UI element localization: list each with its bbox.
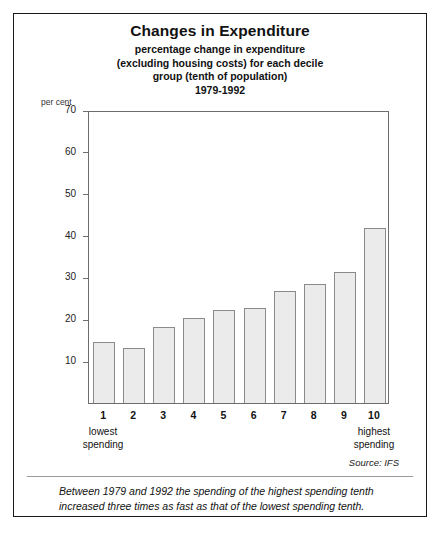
x-axis-note-lowest: lowest spending xyxy=(68,425,138,451)
bar xyxy=(304,284,326,403)
y-axis-tick-label: 10 xyxy=(65,355,76,366)
figure-subtitle: percentage change in expenditure (exclud… xyxy=(14,43,426,97)
bar xyxy=(93,342,115,403)
y-axis-tick-label: 70 xyxy=(65,104,76,115)
subtitle-line-4: 1979-1992 xyxy=(14,84,426,98)
bar-slot xyxy=(213,112,235,403)
bar-slot xyxy=(364,112,386,403)
bar-slot xyxy=(334,112,356,403)
y-axis-tick-label: 60 xyxy=(65,146,76,157)
title-block: Changes in Expenditure percentage change… xyxy=(14,21,426,97)
bar xyxy=(244,308,266,403)
figure-frame: Changes in Expenditure percentage change… xyxy=(13,13,427,517)
bar xyxy=(334,272,356,403)
bar-slot xyxy=(183,112,205,403)
bar-slot xyxy=(274,112,296,403)
y-axis-tick-label: 50 xyxy=(65,188,76,199)
bars-layer xyxy=(89,112,388,403)
page-title: Changes in Expenditure xyxy=(14,21,426,40)
subtitle-line-2: (excluding housing costs) for each decil… xyxy=(14,57,426,71)
bar-slot xyxy=(123,112,145,403)
bar xyxy=(183,318,205,403)
bar xyxy=(364,228,386,403)
footnote-divider xyxy=(27,476,413,477)
source-note: Source: IFS xyxy=(349,457,399,468)
bar-slot xyxy=(304,112,326,403)
bar-slot xyxy=(93,112,115,403)
subtitle-line-1: percentage change in expenditure xyxy=(14,43,426,57)
footnote-text: Between 1979 and 1992 the spending of th… xyxy=(59,484,396,514)
y-axis-tick-label: 40 xyxy=(65,230,76,241)
bar-slot xyxy=(244,112,266,403)
bar xyxy=(123,348,145,403)
y-axis-tick-label: 20 xyxy=(65,313,76,324)
bar-slot xyxy=(153,112,175,403)
x-axis-note-highest: highest spending xyxy=(339,425,409,451)
x-axis-label-10: 10 xyxy=(354,409,394,421)
bar xyxy=(153,327,175,403)
bar xyxy=(213,310,235,403)
subtitle-line-3: group (tenth of population) xyxy=(14,70,426,84)
plot-area xyxy=(88,111,389,404)
y-axis-tick-label: 30 xyxy=(65,271,76,282)
bar xyxy=(274,291,296,403)
